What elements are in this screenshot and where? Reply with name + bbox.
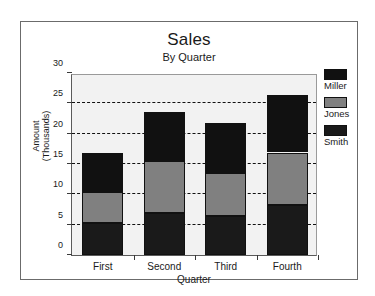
y-axis-tick [67,163,72,164]
legend-item-miller[interactable]: Miller [324,69,366,92]
y-axis-tick-label: 5 [58,210,63,220]
x-axis-tick [134,255,135,260]
x-axis-tick-label: Third [214,261,237,272]
plot-area: 051015202530 FirstSecondThirdFourth Quar… [71,74,317,256]
legend-swatch-smith [324,125,347,136]
bar-segment-miller[interactable] [267,95,308,152]
x-axis-tick [318,255,319,260]
bar-segment-smith[interactable] [267,205,308,255]
legend-label-miller: Miller [324,80,366,92]
chart-title: Sales [21,30,357,49]
legend-label-jones: Jones [324,108,366,120]
y-axis-tick [67,102,72,103]
y-axis-tick-label: 10 [53,179,63,189]
legend-item-smith[interactable]: Smith [324,125,366,148]
y-axis-tick [67,224,72,225]
bar-segment-smith[interactable] [82,223,123,255]
x-axis-tick [257,255,258,260]
y-axis-tick [67,254,72,255]
x-axis-tick-label: Second [147,261,181,272]
bar-segment-smith[interactable] [205,216,246,255]
bar-segment-jones[interactable] [205,173,246,215]
bar-group[interactable] [144,73,185,255]
y-axis-tick [67,133,72,134]
y-axis-tick-label: 15 [53,149,63,159]
y-axis-tick [67,193,72,194]
y-axis-tick-label: 25 [53,88,63,98]
legend-swatch-jones [324,97,347,108]
y-axis-tick-label: 30 [53,58,63,68]
legend-label-smith: Smith [324,136,366,148]
legend-item-jones[interactable]: Jones [324,97,366,120]
bar-group[interactable] [82,73,123,255]
chart-legend: MillerJonesSmith [324,69,366,153]
bar-segment-jones[interactable] [144,161,185,213]
bar-group[interactable] [205,73,246,255]
chart-frame: Sales By Quarter Amount (Thousands) 0510… [20,21,358,280]
x-axis-title: Quarter [72,274,316,285]
y-axis-tick [67,72,72,73]
bar-segment-smith[interactable] [144,213,185,255]
y-axis-title-line1: Amount [31,91,41,181]
y-axis-tick-label: 20 [53,119,63,129]
bar-segment-jones[interactable] [82,192,123,224]
bar-segment-miller[interactable] [82,153,123,192]
y-axis-title-line2: (Thousands) [41,91,51,181]
y-axis-title: Amount (Thousands) [31,91,51,181]
chart-subtitle: By Quarter [21,51,357,64]
x-axis-tick-label: First [93,261,112,272]
legend-swatch-miller [324,69,347,80]
bar-group[interactable] [267,73,308,255]
y-axis-tick-label: 0 [58,240,63,250]
x-axis-tick-label: Fourth [273,261,302,272]
bar-segment-miller[interactable] [205,123,246,173]
bar-segment-miller[interactable] [144,112,185,161]
bar-segment-jones[interactable] [267,153,308,206]
x-axis-tick [195,255,196,260]
